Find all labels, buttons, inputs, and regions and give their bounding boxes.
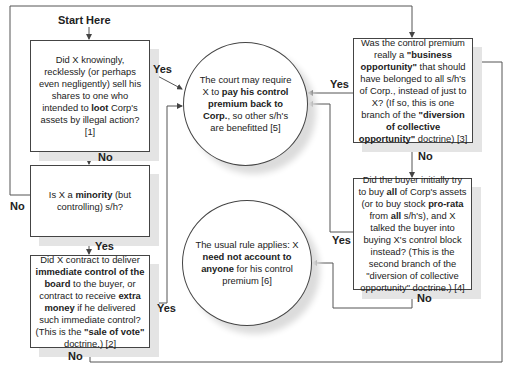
question-business-opportunity: Was the control premium really a "busine…: [353, 38, 473, 143]
edge-label-q5-yes: Yes: [332, 234, 351, 246]
edge-label-q2-yes: Yes: [95, 240, 114, 252]
result-usual-rule: The usual rule applies: X need not accou…: [182, 200, 312, 326]
edge-label-q3-no: No: [68, 350, 83, 362]
edge-label-q1-yes: Yes: [153, 63, 172, 75]
start-here-label: Start Here: [58, 14, 111, 26]
edge-label-q1-no: No: [98, 151, 113, 163]
result-pay-back-premium: The court may require X to pay his contr…: [183, 42, 308, 166]
question-minority: Is X a minority (but controlling) s/h?: [30, 165, 150, 237]
edge-label-q3-yes: Yes: [157, 302, 176, 314]
question-loot: Did X knowingly, recklessly (or perhaps …: [30, 40, 150, 152]
edge-label-q2-no: No: [10, 200, 25, 212]
edge-label-q4-no: No: [418, 150, 433, 162]
edge-label-q5-no: No: [417, 292, 432, 304]
question-buyer-all-assets: Did the buyer initially try to buy all o…: [353, 178, 472, 290]
edge-label-q4-yes: Yes: [330, 78, 349, 90]
question-sale-of-vote: Did X contract to deliver immediate cont…: [30, 255, 150, 348]
